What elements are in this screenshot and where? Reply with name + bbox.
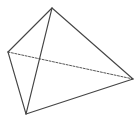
edge-left-right-hidden: [8, 52, 133, 79]
edge-left-bottom: [8, 52, 26, 114]
edge-apex-left: [8, 8, 52, 52]
tetrahedron-edges: [8, 8, 133, 114]
edge-apex-bottom: [26, 8, 52, 114]
tetrahedron-diagram: [0, 0, 140, 126]
edge-bottom-right: [26, 79, 133, 114]
edge-apex-right: [52, 8, 133, 79]
